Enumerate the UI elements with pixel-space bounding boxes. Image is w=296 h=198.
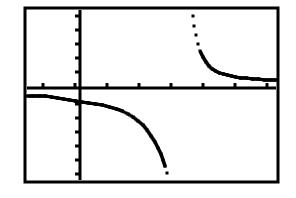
curve-pixel [166,172,169,175]
curve-pixel [275,79,278,82]
curve-pixel [192,15,195,18]
calculator-screenshot [0,0,296,198]
curve-pixel [193,25,196,28]
curve-pixel [197,43,200,46]
plot-background [0,0,296,198]
graph-plot-area[interactable] [0,0,296,198]
curve-pixel [164,165,167,168]
curve-pixel [195,34,198,37]
